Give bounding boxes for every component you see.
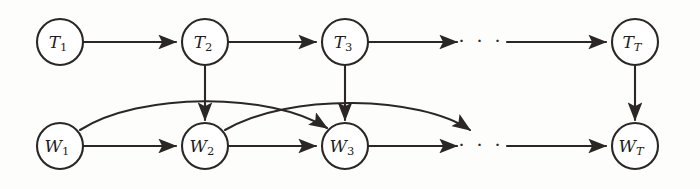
figure-canvas: T1 T2 T3 TT W1 W2 W3 WT [0, 0, 700, 189]
node-TT[interactable]: TT [612, 19, 658, 65]
node-WT[interactable]: WT [612, 123, 658, 169]
node-T1[interactable]: T1 [37, 19, 83, 65]
node-T3[interactable]: T3 [322, 19, 368, 65]
graphical-model-figure: T1 T2 T3 TT W1 W2 W3 WT [0, 0, 700, 189]
topic-row-ellipsis: · · · [458, 29, 503, 51]
node-W2[interactable]: W2 [182, 123, 228, 169]
node-T2[interactable]: T2 [182, 19, 228, 65]
word-row-ellipsis: · · · [458, 133, 503, 155]
node-W3[interactable]: W3 [322, 123, 368, 169]
node-W1[interactable]: W1 [37, 123, 83, 169]
